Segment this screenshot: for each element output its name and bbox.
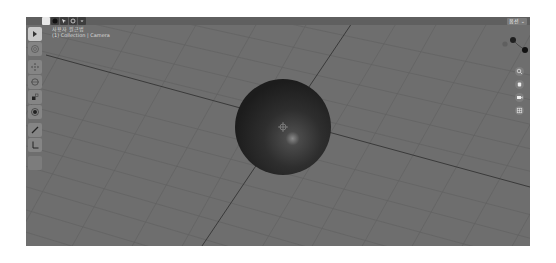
navigation-gizmo[interactable] bbox=[498, 31, 528, 61]
tool-shelf bbox=[28, 27, 42, 170]
collection-info-label: (1) Collection | Camera bbox=[52, 32, 110, 38]
camera-view-button[interactable] bbox=[515, 93, 524, 102]
cursor-icon bbox=[30, 29, 40, 39]
ruler-icon bbox=[30, 140, 40, 150]
viewport-header: 옵션 ⌄ bbox=[26, 17, 530, 25]
annotate-tool[interactable] bbox=[28, 123, 42, 137]
scale-icon bbox=[30, 92, 40, 102]
overlay-icon[interactable] bbox=[69, 17, 77, 25]
scene-canvas[interactable] bbox=[26, 17, 530, 246]
rotate-icon bbox=[30, 77, 40, 87]
pencil-icon bbox=[30, 125, 40, 135]
cursor-tool[interactable] bbox=[28, 42, 42, 56]
ortho-toggle-button[interactable] bbox=[515, 106, 524, 115]
gizmo-x-axis bbox=[522, 47, 528, 53]
move-tool[interactable] bbox=[28, 60, 42, 74]
pan-button[interactable] bbox=[515, 80, 524, 89]
header-mode-buttons bbox=[42, 17, 86, 25]
transform-icon bbox=[30, 107, 40, 117]
selection-mode-icon[interactable] bbox=[60, 17, 68, 25]
transform-tool[interactable] bbox=[28, 105, 42, 119]
3d-viewport[interactable]: 옵션 ⌄ 사용자 원근법 (1) Collection | Camera bbox=[26, 17, 530, 246]
magnifier-icon bbox=[516, 68, 523, 75]
rotate-tool[interactable] bbox=[28, 75, 42, 89]
view-options-dropdown[interactable]: 옵션 ⌄ bbox=[507, 18, 527, 25]
select-box-icon[interactable] bbox=[42, 17, 50, 25]
move-icon bbox=[30, 62, 40, 72]
select-tool[interactable] bbox=[28, 27, 42, 41]
viewport-shading-icon[interactable] bbox=[51, 17, 59, 25]
gizmo-z-axis bbox=[510, 37, 516, 43]
blank-icon bbox=[30, 158, 40, 168]
grid-icon bbox=[516, 107, 523, 114]
camera-icon bbox=[516, 94, 523, 101]
hand-icon bbox=[516, 81, 523, 88]
measure-tool[interactable] bbox=[28, 138, 42, 152]
extra-tool[interactable] bbox=[28, 156, 42, 170]
dropdown-icon[interactable] bbox=[78, 17, 86, 25]
gizmo-y-axis bbox=[502, 41, 507, 46]
3d-cursor-icon bbox=[30, 44, 40, 54]
navigation-buttons bbox=[515, 67, 524, 115]
zoom-button[interactable] bbox=[515, 67, 524, 76]
scale-tool[interactable] bbox=[28, 90, 42, 104]
